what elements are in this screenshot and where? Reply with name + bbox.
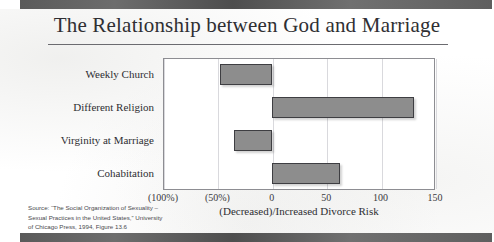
category-label-different-religion: Different Religion [0, 101, 154, 113]
x-axis-title: (Decreased)/Increased Divorce Risk [163, 205, 435, 217]
x-tick-label-2: 0 [269, 192, 274, 203]
page-title: The Relationship between God and Marriag… [0, 13, 494, 38]
category-label-virginity-at-marriage: Virginity at Marriage [0, 134, 154, 146]
source-line-0: Source: “The Social Organization of Sexu… [28, 203, 188, 213]
x-tick-label-3: 50 [321, 192, 331, 203]
gridline-0 [164, 59, 165, 189]
gridline-4 [382, 59, 383, 189]
source-note: Source: “The Social Organization of Sexu… [28, 203, 188, 232]
source-line-1: Sexual Practices in the United States,” … [28, 213, 188, 223]
scan-band-top [20, 0, 492, 9]
bar-virginity-at-marriage [234, 130, 272, 151]
source-line-2: of Chicago Press, 1994, Figure 13.6 [28, 222, 188, 232]
title-underline [48, 44, 448, 45]
gridline-5 [436, 59, 437, 189]
scan-band-bottom [20, 233, 492, 242]
x-tick-label-4: 100 [373, 192, 388, 203]
x-tick-label-0: (100%) [148, 192, 178, 203]
bar-cohabitation [272, 163, 341, 184]
x-tick-label-5: 150 [428, 192, 443, 203]
bar-different-religion [272, 97, 415, 118]
category-label-weekly-church: Weekly Church [0, 68, 154, 80]
category-label-cohabitation: Cohabitation [0, 167, 154, 179]
bar-weekly-church [220, 64, 272, 85]
x-tick-label-1: (50%) [205, 192, 230, 203]
slide-canvas: The Relationship between God and Marriag… [0, 0, 494, 242]
